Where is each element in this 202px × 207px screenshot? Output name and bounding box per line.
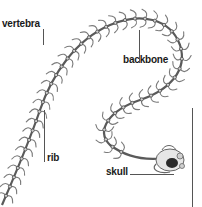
skeleton-illustration xyxy=(0,0,202,207)
leader-line-rib xyxy=(44,110,45,162)
label-rib: rib xyxy=(47,153,59,163)
leader-line-right xyxy=(192,108,193,207)
label-backbone: backbone xyxy=(123,55,168,65)
label-skull: skull xyxy=(106,167,128,177)
label-vertebra: vertebra xyxy=(2,19,40,29)
snake-skeleton-diagram: vertebra backbone rib skull xyxy=(0,0,202,207)
skull-icon xyxy=(154,146,184,173)
leader-line-backbone xyxy=(139,30,140,63)
leader-line-vertebra xyxy=(43,29,44,45)
leader-line-skull xyxy=(130,174,174,175)
